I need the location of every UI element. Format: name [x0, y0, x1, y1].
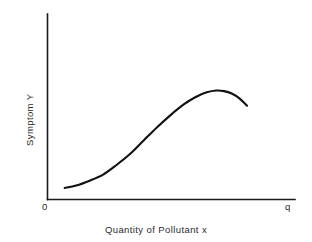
- x-axis-tick-max: q: [285, 201, 290, 212]
- dose-response-curve: [65, 90, 247, 187]
- chart-figure: Symptom Y Quantity of Pollutant x 0 q: [0, 0, 312, 242]
- x-axis-tick-origin: 0: [42, 201, 47, 212]
- y-axis-label: Symptom Y: [24, 36, 35, 146]
- x-axis-label: Quantity of Pollutant x: [0, 224, 312, 235]
